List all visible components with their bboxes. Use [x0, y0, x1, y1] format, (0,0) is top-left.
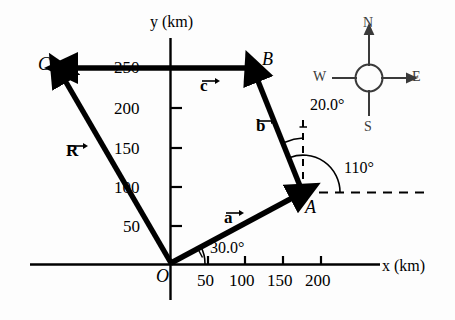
point-label-b: B [262, 50, 273, 68]
compass-label-west: W [313, 70, 326, 84]
dot-point-c [56, 63, 66, 73]
dot-point-b [248, 63, 258, 73]
point-label-c: C [38, 55, 50, 73]
vector-label-c: c [200, 76, 208, 96]
compass-label-north: N [363, 16, 373, 30]
compass-label-south: S [364, 120, 372, 134]
y-axis-label: y (km) [150, 14, 193, 30]
vector-R-overarrow-icon [67, 141, 455, 320]
angle-label-20: 20.0° [310, 97, 344, 113]
vector-diagram-figure: y (km) x (km) 50 100 150 200 250 50 100 … [0, 0, 455, 320]
compass-label-east: E [412, 70, 421, 84]
vector-label-R: R [66, 141, 78, 161]
y-tick-label-250: 250 [114, 59, 140, 76]
angle-label-110: 110° [344, 160, 374, 176]
y-tick-label-200: 200 [114, 100, 140, 117]
angle-label-30: 30.0° [210, 240, 244, 256]
